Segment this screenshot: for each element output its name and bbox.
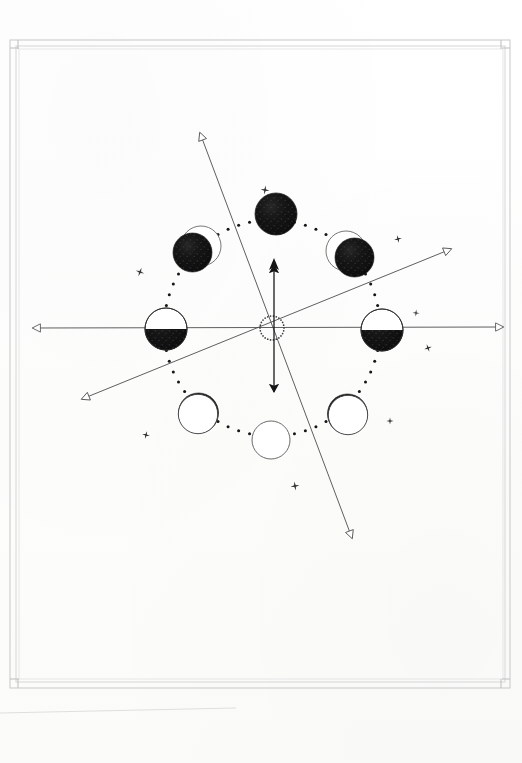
moon-full-moon: [252, 421, 290, 459]
corner-mark-top-left: [10, 40, 19, 49]
star-icon: [423, 343, 433, 353]
hub-dot: [267, 316, 269, 318]
hub-dot: [280, 335, 282, 337]
orbit-dot: [373, 293, 376, 296]
hub-dot: [262, 335, 264, 337]
hub-dot: [264, 317, 266, 319]
orbit-dot: [304, 429, 307, 432]
orbit-dot: [373, 360, 376, 363]
hub-dot: [270, 315, 272, 317]
corner-mark-top-right: [501, 40, 510, 49]
orbit-dot: [369, 370, 372, 373]
moon-half-moon-left: [145, 308, 187, 350]
orbit-dot: [369, 283, 372, 286]
hub-dot: [283, 324, 285, 326]
hub-dot: [261, 322, 263, 324]
orbit-dot: [177, 273, 180, 276]
hub-dot: [278, 317, 280, 319]
hub-dot: [282, 322, 284, 324]
hub-dot: [275, 338, 277, 340]
hub-dot: [267, 338, 269, 340]
orbit-dot: [168, 360, 171, 363]
decorative-frame: [10, 40, 510, 688]
orbit-dot: [325, 420, 328, 423]
hub-dot: [282, 333, 284, 335]
orbit-dot: [248, 432, 251, 435]
orbit-dot: [165, 304, 168, 307]
horizontal-axis: [33, 327, 503, 328]
hub-dot: [260, 330, 262, 332]
orbit-dot: [358, 390, 361, 393]
orbit-dot: [364, 381, 367, 384]
star-icon: [393, 234, 403, 244]
lunar-phase-diagram: [0, 0, 522, 763]
orbit-dot: [237, 224, 240, 227]
hub-dot: [259, 327, 261, 329]
hub-dot: [275, 316, 277, 318]
hub-dot: [270, 339, 272, 341]
orbit-dot: [304, 224, 307, 227]
orbit-dot: [227, 425, 230, 428]
orbit-dot: [168, 293, 171, 296]
hub-dot: [260, 324, 262, 326]
axis-lines-group: [33, 133, 503, 538]
orbit-dot: [376, 304, 379, 307]
hub-dot: [261, 333, 263, 335]
orbit-dot: [293, 432, 296, 435]
corner-mark-bottom-left: [10, 679, 19, 688]
star-icon: [290, 481, 300, 491]
frame-inner-rect: [16, 46, 505, 682]
hub-dot: [262, 319, 264, 321]
frame-inner-rect-2: [19, 49, 503, 679]
orbit-dot: [227, 228, 230, 231]
moon-waning-crescent-left: [326, 231, 374, 277]
star-icon: [412, 309, 420, 317]
hub-dot: [280, 319, 282, 321]
hub-dot: [283, 330, 285, 332]
bottom-rule: [0, 708, 236, 713]
moon-waxing-crescent-right: [173, 226, 221, 272]
hub-dot: [264, 337, 266, 339]
hub-dot: [283, 327, 285, 329]
frame-outer-rect: [10, 40, 510, 688]
moon-new-moon: [255, 193, 297, 235]
orbit-dot: [314, 228, 317, 231]
orbit-dot: [183, 390, 186, 393]
orbit-dot: [248, 221, 251, 224]
orbit-dot: [325, 233, 328, 236]
paper-page: Lunar Phase Cycle Lunar Phase Cycle Diag…: [0, 0, 522, 763]
moon-gibbous-lower-right: [328, 394, 368, 435]
star-icon: [260, 185, 270, 195]
orbit-dot: [172, 283, 175, 286]
orbit-dot: [314, 425, 317, 428]
star-icon: [387, 418, 394, 425]
orbit-dot: [237, 429, 240, 432]
moon-half-moon-right: [361, 309, 403, 351]
star-icon: [134, 266, 146, 278]
hub-dot: [278, 337, 280, 339]
orbit-dot: [172, 370, 175, 373]
star-icon: [141, 430, 151, 440]
orbit-dot: [177, 381, 180, 384]
moon-gibbous-lower-left: [178, 393, 218, 434]
